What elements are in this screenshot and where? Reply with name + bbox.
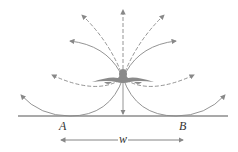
curve-right-outer — [176, 95, 225, 116]
diagram-canvas: A B w — [0, 0, 238, 152]
width-label: w — [119, 133, 127, 145]
aircraft-icon — [92, 69, 154, 84]
curve-b-to-craft — [123, 78, 176, 116]
dashed-left-high — [82, 15, 121, 72]
point-b-label: B — [179, 120, 186, 132]
curve-left-upper — [70, 41, 120, 72]
flight-path-diagram — [0, 0, 238, 152]
point-a-label: A — [59, 120, 66, 132]
dashed-right-high — [125, 15, 164, 72]
curve-left-outer — [21, 95, 70, 116]
curve-a-to-craft — [70, 78, 123, 116]
curve-right-upper — [126, 41, 176, 72]
